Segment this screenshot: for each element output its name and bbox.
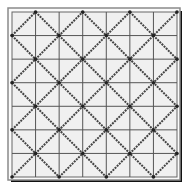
lattice-node [81,10,85,14]
lattice-node [152,128,156,132]
lattice-node [175,104,179,108]
lattice-node [34,10,38,14]
lattice-node [152,34,156,38]
lattice-node [10,34,14,38]
lattice-node [104,175,108,179]
lattice-node [34,57,38,61]
lattice-node [128,152,132,156]
lattice-node [175,57,179,61]
lattice-node [104,128,108,132]
lattice-node [175,10,179,14]
lattice-node [10,128,14,132]
lattice-node [10,175,14,179]
lattice-node [152,81,156,85]
lattice-node [57,81,61,85]
lattice-node [128,104,132,108]
lattice-node [104,34,108,38]
lattice-node [34,152,38,156]
lattice-node [152,175,156,179]
lattice-node [81,104,85,108]
lattice-node [10,81,14,85]
diamond-grid-diagram [0,0,194,191]
lattice-node [81,152,85,156]
lattice-node [34,104,38,108]
lattice-node [128,10,132,14]
lattice-node [57,34,61,38]
lattice-node [128,57,132,61]
lattice-node [175,152,179,156]
lattice-node [57,128,61,132]
lattice-node [81,57,85,61]
lattice-node [104,81,108,85]
lattice-node [57,175,61,179]
